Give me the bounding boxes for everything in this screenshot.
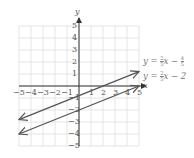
eq1-intercept-fraction: 45 [181, 56, 184, 67]
y-axis-label: y [75, 8, 80, 16]
eq2-rest: x − 2 [164, 71, 187, 81]
x-tick-label: 1 [89, 89, 94, 97]
x-tick-label: 4 [125, 89, 130, 97]
y-tick-label: 5 [72, 22, 77, 30]
y-tick-label: 1 [72, 70, 77, 78]
y-tick-label: 4 [72, 34, 77, 42]
eq1-den2: 5 [181, 62, 184, 67]
eq1-mid: x − [164, 56, 179, 66]
eq2-lhs: y = [143, 71, 158, 81]
x-tick-label: −2 [49, 89, 61, 97]
x-tick-label: 2 [101, 89, 106, 97]
equation-upper-line: y = 25x − 45 [143, 56, 184, 67]
x-axis-label: x [143, 82, 148, 90]
x-tick-label: −3 [37, 89, 49, 97]
y-tick-label: 2 [72, 58, 77, 66]
equation-lower-line: y = 25x − 2 [143, 71, 186, 82]
y-tick-label: −5 [68, 142, 80, 150]
x-tick-label: −4 [25, 89, 37, 97]
y-tick-label: −1 [68, 94, 80, 102]
y-tick-label: −4 [68, 130, 80, 138]
eq1-lhs: y = [143, 56, 158, 66]
y-tick-label: −3 [68, 118, 80, 126]
x-tick-label: −5 [13, 89, 25, 97]
x-tick-label: 5 [137, 89, 142, 97]
y-tick-label: −2 [68, 106, 80, 114]
y-tick-label: 3 [72, 46, 77, 54]
x-tick-label: 3 [113, 89, 118, 97]
